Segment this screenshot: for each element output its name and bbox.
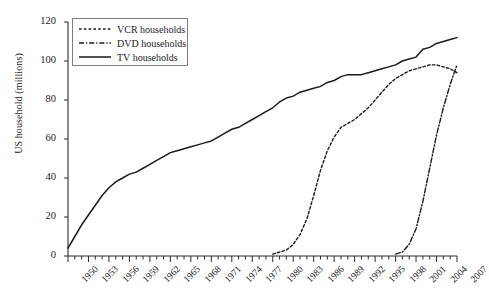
y-tick-label: 20 [22, 210, 56, 221]
data-series-group [68, 38, 457, 254]
y-tick-label: 120 [22, 15, 56, 26]
legend-swatch-tv [78, 52, 112, 62]
legend-swatch-vcr [78, 24, 112, 34]
legend-label-vcr: VCR households [117, 24, 185, 35]
legend-label-tv: TV households [117, 52, 178, 63]
y-tick-label: 0 [22, 249, 56, 260]
series-line-vcr [273, 65, 457, 254]
series-line-tv [68, 38, 457, 249]
x-axis-ticks [68, 256, 457, 262]
legend-label-dvd: DVD households [117, 38, 186, 49]
y-tick-label: 100 [22, 54, 56, 65]
series-line-dvd [396, 65, 457, 254]
legend: VCR households DVD households TV househo… [72, 18, 188, 66]
y-axis-ticks [64, 22, 68, 256]
y-tick-label: 60 [22, 132, 56, 143]
y-tick-label: 80 [22, 93, 56, 104]
legend-item-vcr: VCR households [78, 22, 185, 36]
legend-item-dvd: DVD households [78, 36, 186, 50]
y-tick-label: 40 [22, 171, 56, 182]
legend-item-tv: TV households [78, 50, 178, 64]
legend-swatch-dvd [78, 38, 112, 48]
